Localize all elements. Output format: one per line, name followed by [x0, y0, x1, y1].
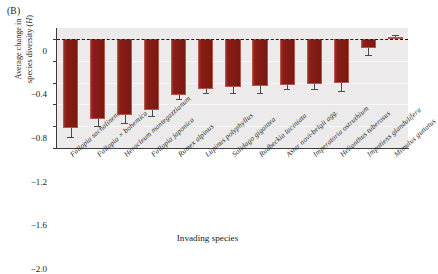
- bar: [225, 39, 240, 87]
- y-axis-tick-label: −1.2: [31, 177, 47, 187]
- error-bar-stem: [368, 48, 369, 55]
- error-bar-cap: [338, 91, 345, 92]
- error-bar-cap: [94, 126, 101, 127]
- bar: [90, 39, 105, 119]
- error-bar-cap: [203, 93, 210, 94]
- x-axis-title: Invading species: [0, 233, 415, 243]
- bar: [280, 39, 295, 85]
- error-bar-cap: [176, 99, 183, 100]
- bar: [252, 39, 267, 86]
- y-axis-tick: −0.8: [53, 83, 57, 84]
- y-axis-tick-label: −0.8: [31, 133, 47, 143]
- bar: [144, 39, 159, 110]
- plot-area: 0−0.4−0.8−1.2−1.6−2.0: [56, 28, 408, 148]
- bar: [63, 39, 78, 128]
- bar: [334, 39, 349, 83]
- error-bar-cap: [121, 123, 128, 124]
- y-axis-tick: −1.2: [53, 104, 57, 105]
- error-bar-stem: [71, 128, 72, 137]
- y-axis-tick-label: −0.4: [31, 89, 47, 99]
- y-axis-tick-label: −2.0: [31, 264, 47, 274]
- bar: [361, 39, 376, 48]
- error-bar-cap: [284, 89, 291, 90]
- y-axis-title-line1: Average change in: [14, 19, 23, 80]
- y-axis-tick: −0.4: [53, 61, 57, 62]
- gridline: [57, 104, 408, 105]
- x-axis-line: [56, 148, 409, 149]
- error-bar-cap: [230, 93, 237, 94]
- error-bar-cap: [392, 35, 399, 36]
- error-bar-cap: [67, 137, 74, 138]
- zero-reference-line: [57, 39, 408, 40]
- bar: [307, 39, 322, 84]
- error-bar-stem: [98, 119, 99, 126]
- y-axis-tick-label: −1.6: [31, 220, 47, 230]
- bar: [198, 39, 213, 89]
- error-bar-cap: [311, 89, 318, 90]
- y-axis-tick: −1.6: [53, 126, 57, 127]
- error-bar-cap: [148, 116, 155, 117]
- error-bar-stem: [125, 115, 126, 123]
- y-axis-tick-label: 0: [43, 46, 48, 56]
- error-bar-cap: [257, 93, 264, 94]
- error-bar-cap: [365, 55, 372, 56]
- error-bar-stem: [260, 86, 261, 94]
- gridline: [57, 126, 408, 127]
- bar: [117, 39, 132, 115]
- bar: [171, 39, 186, 95]
- error-bar-stem: [341, 83, 342, 91]
